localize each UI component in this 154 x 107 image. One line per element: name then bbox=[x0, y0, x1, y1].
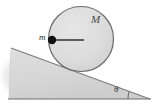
disk-mass-label: M bbox=[91, 14, 100, 25]
disk-body bbox=[49, 7, 114, 72]
physics-diagram-figure: M m θ bbox=[0, 0, 154, 107]
incline-angle-label: θ bbox=[114, 85, 118, 94]
point-mass-dot bbox=[48, 36, 56, 44]
diagram-canvas bbox=[0, 0, 154, 107]
point-mass-label: m bbox=[39, 33, 46, 42]
